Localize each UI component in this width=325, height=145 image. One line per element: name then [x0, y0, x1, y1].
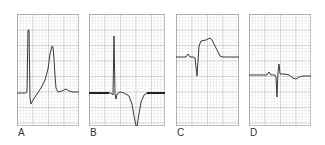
ecg-panel-a [17, 14, 79, 126]
ecg-strip-d [249, 14, 311, 126]
panel-label-d: D [250, 127, 257, 138]
panel-label-b: B [90, 127, 97, 138]
ecg-panel-c [176, 14, 239, 126]
ecg-strip-b [89, 14, 165, 126]
panel-label-a: A [18, 127, 25, 138]
ecg-strip-a [17, 14, 79, 126]
ecg-panel-b [89, 14, 165, 126]
ecg-panel-d [249, 14, 311, 126]
ecg-strip-c [176, 14, 239, 126]
panel-label-c: C [177, 127, 184, 138]
